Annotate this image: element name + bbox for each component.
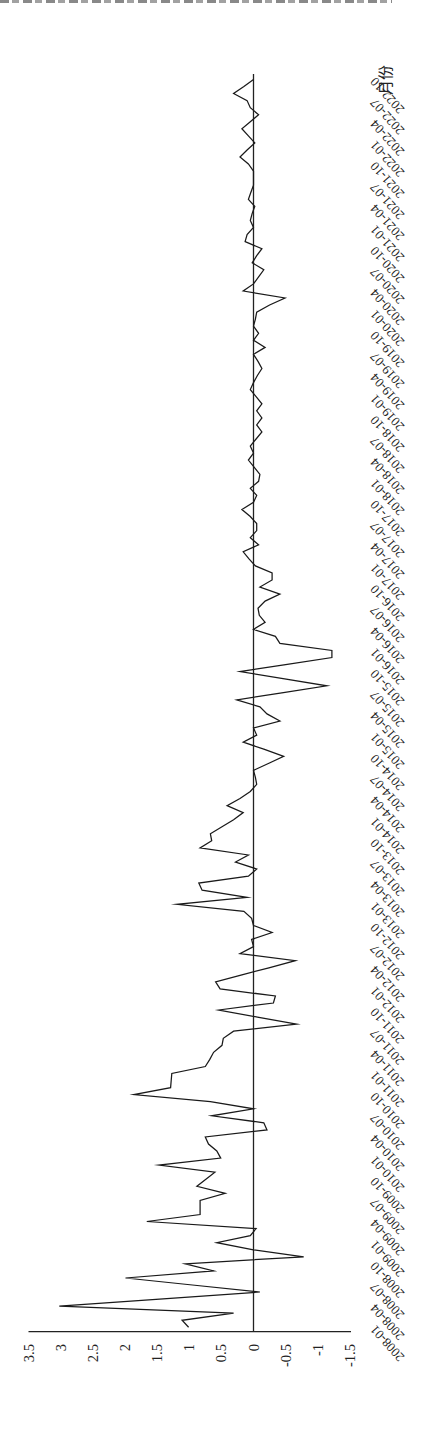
time-axis-title: 月份 [378,65,394,95]
line-chart: 3.532.521.510.50-0.5-1-1.5 2008-012008-0… [0,0,442,1432]
data-series-line [59,80,332,1328]
value-tick-label: 0 [246,1344,262,1351]
value-tick-label: -1 [310,1344,326,1356]
value-tick-label: 0.5 [213,1344,229,1362]
value-tick-label: -0.5 [278,1344,294,1367]
value-tick-label: 1.5 [149,1344,165,1362]
value-tick-label: 3.5 [21,1344,37,1362]
value-tick-label: 1 [181,1344,197,1351]
value-tick-label: 2 [117,1344,133,1351]
time-axis-tick-labels: 2008-012008-042008-072008-102009-012009-… [367,74,407,1364]
value-tick-label: 2.5 [85,1344,101,1362]
value-tick-label: 3 [53,1344,69,1351]
value-tick-label: -1.5 [342,1344,358,1367]
value-axis-tick-labels: 3.532.521.510.50-0.5-1-1.5 [21,1344,358,1367]
